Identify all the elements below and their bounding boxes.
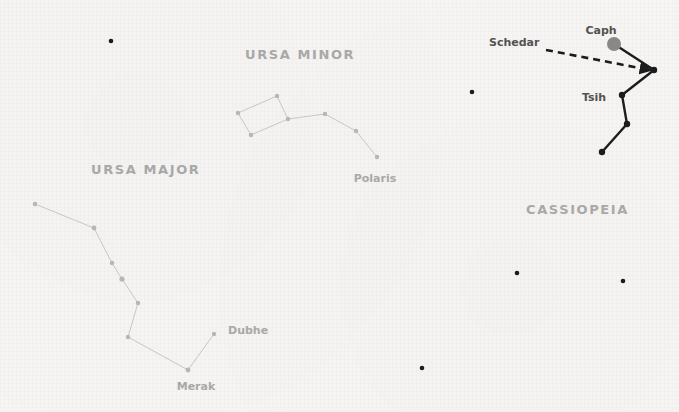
star-label-polaris: Polaris [354,172,397,185]
constellation-line [188,334,214,370]
constellation-line [251,119,288,135]
constellation-line [35,204,94,228]
schedar-pointer [546,50,650,70]
star-alkaid[interactable] [33,202,37,206]
constellation-name-cassiopeia: CASSIOPEIA [526,202,629,217]
star-alioth[interactable] [110,261,114,265]
constellation-ursa-minor[interactable] [236,94,379,159]
constellation-line [288,114,325,119]
star-phecda[interactable] [136,301,140,305]
constellation-name-ursa-major: URSA MAJOR [91,162,200,177]
background-star [621,279,626,284]
constellation-line [122,279,138,303]
star-merak[interactable] [186,368,191,373]
background-star [515,271,520,276]
constellation-line [238,113,251,135]
star-label-schedar: Schedar [489,36,540,49]
constellation-line [325,114,356,131]
star-handle-2[interactable] [354,129,358,133]
star-tsih[interactable] [619,92,625,98]
constellation-line [622,70,654,95]
constellation-cassiopeia[interactable] [599,37,657,155]
background-star [470,90,475,95]
constellation-line [112,263,122,279]
constellation-ursa-major[interactable] [33,202,216,373]
star-mizar[interactable] [92,226,97,231]
star-segin[interactable] [599,149,605,155]
constellation-line [356,131,377,157]
star-handle-1[interactable] [323,112,327,116]
constellation-line [277,96,288,119]
constellation-line [238,96,277,113]
star-label-dubhe: Dubhe [228,324,268,337]
star-label-caph: Caph [585,24,616,37]
background-star [109,39,114,44]
background-star [420,366,425,371]
star-caph[interactable] [607,37,621,51]
star-bowl-sw[interactable] [126,335,130,339]
label-layer: URSA MINORPolarisURSA MAJORDubheMerakCAS… [91,24,629,393]
star-dubhe[interactable] [212,332,216,336]
star-bowl-left[interactable] [236,111,240,115]
star-chart-canvas: URSA MINORPolarisURSA MAJORDubheMerakCAS… [0,0,679,412]
constellation-line [622,95,627,124]
annotation-layer [546,50,650,70]
star-schedar[interactable] [651,67,657,73]
constellation-line [602,124,627,152]
constellation-line [128,303,138,337]
star-label-merak: Merak [177,380,216,393]
constellation-line [128,337,188,370]
star-ruchbah[interactable] [624,121,630,127]
star-bowl-bottom[interactable] [249,133,253,137]
star-label-tsih: Tsih [582,91,606,104]
star-polaris[interactable] [375,155,379,159]
constellation-name-ursa-minor: URSA MINOR [245,47,355,62]
star-chart-svg: URSA MINORPolarisURSA MAJORDubheMerakCAS… [0,0,679,412]
constellation-line [94,228,112,263]
star-bowl-right[interactable] [286,117,290,121]
star-bowl-top[interactable] [275,94,279,98]
star-megrez[interactable] [119,276,124,281]
